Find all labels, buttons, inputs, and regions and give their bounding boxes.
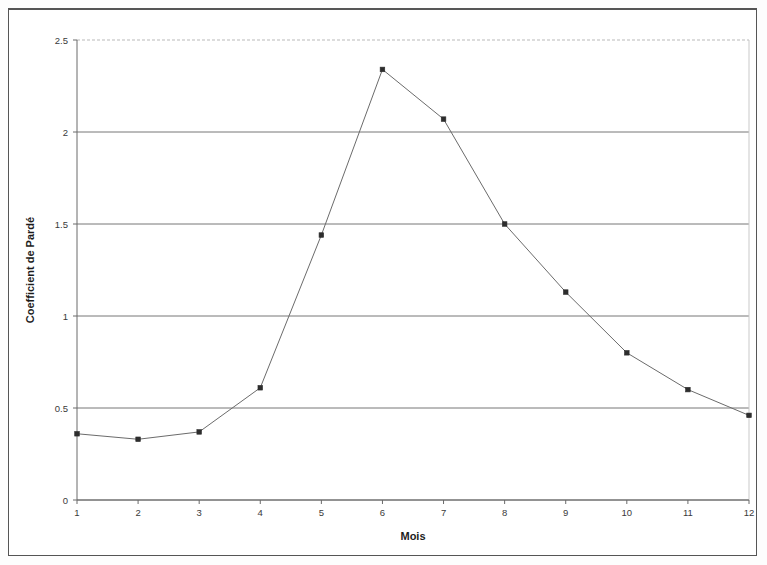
x-axis-title: Mois (400, 530, 425, 542)
data-point-marker (686, 387, 691, 392)
data-point-marker (625, 351, 630, 356)
y-tick-label: 2.5 (55, 35, 68, 46)
data-point-marker (563, 290, 568, 295)
y-axis-ticks-group: 00.511.522.5 (55, 35, 77, 506)
x-tick-label: 1 (74, 507, 79, 518)
data-point-marker (258, 385, 263, 390)
data-series-line (77, 69, 749, 439)
data-point-markers-group (75, 67, 752, 441)
x-tick-label: 7 (441, 507, 446, 518)
data-point-marker (319, 233, 324, 238)
data-point-marker (380, 67, 385, 72)
y-axis-title: Coefficient de Pardé (24, 217, 36, 323)
data-point-marker (502, 222, 507, 227)
data-point-marker (441, 117, 446, 122)
y-tick-label: 1 (63, 311, 68, 322)
pardé-coefficient-line-chart: 00.511.522.5 123456789101112 Mois Coeffi… (0, 0, 767, 565)
x-tick-label: 5 (319, 507, 324, 518)
x-tick-label: 2 (135, 507, 140, 518)
x-tick-label: 4 (258, 507, 263, 518)
gridlines-group (77, 40, 749, 500)
data-point-marker (75, 431, 80, 436)
x-tick-label: 11 (683, 507, 693, 518)
chart-figure: 00.511.522.5 123456789101112 Mois Coeffi… (0, 0, 767, 565)
scanned-page: 00.511.522.5 123456789101112 Mois Coeffi… (0, 0, 767, 565)
x-tick-label: 3 (197, 507, 202, 518)
x-tick-label: 12 (744, 507, 755, 518)
y-tick-label: 1.5 (55, 219, 68, 230)
y-tick-label: 0.5 (55, 403, 68, 414)
x-tick-label: 8 (502, 507, 507, 518)
x-tick-label: 10 (622, 507, 633, 518)
data-point-marker (197, 430, 202, 435)
x-tick-label: 6 (380, 507, 385, 518)
x-tick-label: 9 (563, 507, 568, 518)
y-tick-label: 2 (63, 127, 68, 138)
y-tick-label: 0 (63, 495, 68, 506)
data-point-marker (136, 437, 141, 442)
x-axis-ticks-group: 123456789101112 (74, 500, 754, 518)
data-point-marker (747, 413, 752, 418)
